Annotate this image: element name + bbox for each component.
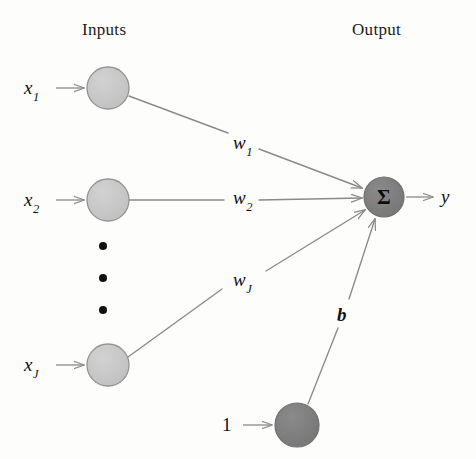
weight-label-w1-base: w: [233, 132, 246, 153]
weight-label-wJ-base: w: [233, 269, 246, 290]
edge-wJ-label-to-sum: [266, 210, 365, 271]
input-node-x1[interactable]: [87, 67, 129, 109]
input-label-x1: x1: [24, 78, 39, 101]
ellipsis-dot: [99, 242, 107, 250]
input-label-xJ: xJ: [24, 355, 38, 378]
ellipsis-dots: [99, 242, 107, 314]
ellipsis-dot: [99, 306, 107, 314]
bias-weight-label-b: b: [337, 305, 347, 324]
weight-label-w2: w2: [233, 188, 252, 211]
output-signal-label: y: [441, 187, 449, 206]
neural-network-diagram: Inputs Output x1 x2 xJ 1 w1 w2 wJ b Σ y: [0, 0, 476, 459]
input-label-x2-subscript: 2: [33, 202, 39, 216]
edge-bias-to-b-label: [308, 328, 338, 404]
edge-b-label-to-sum: [349, 219, 375, 299]
weight-label-wJ-subscript: J: [246, 282, 252, 296]
ellipsis-dot: [99, 274, 107, 282]
diagram-canvas: [0, 0, 476, 459]
output-heading: Output: [352, 20, 401, 40]
edge-x1-to-w1-label: [129, 96, 228, 133]
edge-w1-label-to-sum: [259, 149, 362, 188]
input-label-x2-base: x: [24, 189, 32, 210]
inputs-heading: Inputs: [82, 20, 126, 40]
sigma-symbol: Σ: [377, 187, 391, 208]
weight-label-wJ: wJ: [233, 270, 251, 293]
input-label-xJ-subscript: J: [33, 367, 39, 381]
edge-w2-label-to-sum: [259, 198, 362, 200]
weight-label-w1: w1: [233, 133, 252, 156]
input-node-x2[interactable]: [87, 179, 129, 221]
input-label-x1-base: x: [24, 77, 32, 98]
weight-label-w2-base: w: [233, 187, 246, 208]
input-node-xJ[interactable]: [87, 344, 129, 386]
weight-label-w1-subscript: 1: [246, 145, 252, 159]
bias-input-label: 1: [222, 415, 232, 434]
input-label-xJ-base: x: [24, 354, 32, 375]
edge-xJ-to-wJ-label: [128, 289, 222, 357]
bias-node[interactable]: [275, 403, 319, 447]
weight-label-w2-subscript: 2: [246, 200, 252, 214]
input-label-x1-subscript: 1: [33, 90, 39, 104]
input-label-x2: x2: [24, 190, 39, 213]
